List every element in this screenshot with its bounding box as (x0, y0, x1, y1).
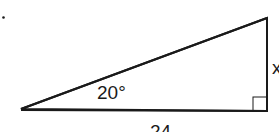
diagram-canvas: 20° 24 x (0, 0, 279, 132)
opposite-side-label: x (272, 57, 279, 78)
base-side (21, 110, 267, 111)
hypotenuse (21, 18, 267, 109)
angle-label: 20° (97, 82, 126, 103)
bullet-dot (2, 16, 5, 19)
base-length-label: 24 (150, 121, 172, 132)
right-angle-marker (253, 97, 267, 111)
